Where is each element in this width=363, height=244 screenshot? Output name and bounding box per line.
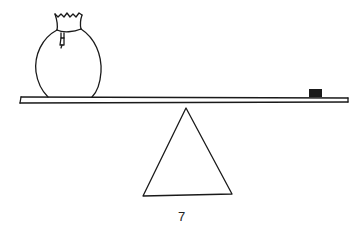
page-number: 7 xyxy=(0,209,363,224)
seesaw-drawing xyxy=(0,0,363,244)
money-bag-icon xyxy=(36,13,101,97)
illustration: 7 xyxy=(0,0,363,244)
fulcrum-triangle xyxy=(143,108,232,196)
seesaw-plank xyxy=(20,97,348,103)
weight-icon xyxy=(309,89,322,97)
